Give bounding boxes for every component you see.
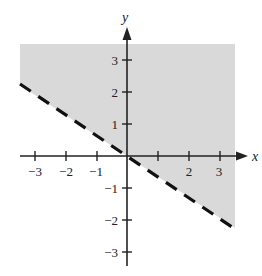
x-axis-arrow-icon (236, 152, 248, 161)
y-tick-label: 2 (112, 85, 119, 100)
y-axis-label: y (120, 10, 129, 25)
y-tick-label: 3 (112, 53, 119, 68)
x-tick-label: −1 (89, 164, 103, 179)
y-tick-label: −1 (104, 181, 118, 196)
inequality-graph: −3 −2 −1 2 3 3 2 1 −1 −2 −3 x y (0, 0, 262, 276)
y-tick-label: −2 (104, 213, 118, 228)
x-axis-label: x (251, 149, 259, 164)
y-axis-arrow-icon (123, 27, 132, 40)
y-tick-label: 1 (112, 117, 119, 132)
y-tick-label: −3 (104, 245, 118, 260)
x-tick-label: 3 (216, 164, 223, 179)
x-tick-label: −2 (59, 164, 73, 179)
x-tick-label: 2 (186, 164, 193, 179)
x-tick-label: −3 (28, 164, 42, 179)
